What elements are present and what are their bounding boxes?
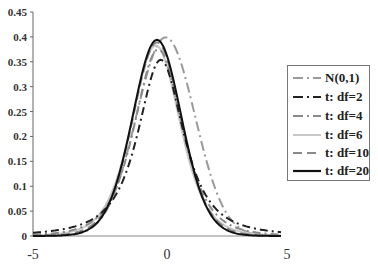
legend-item-t-df4: t: df=4 [292,107,370,125]
legend-swatch-icon [292,92,322,102]
y-tick-label: 0.2 [13,130,27,142]
y-tick-label: 0.05 [8,205,28,217]
x-tick-label: -5 [27,247,39,262]
legend-swatch-icon [292,166,322,176]
y-tick-label: 0.1 [13,180,27,192]
legend-swatch-icon [292,130,322,140]
y-tick-label: 0.25 [8,106,28,118]
series-line [33,40,281,236]
legend-label: t: df=20 [325,163,369,179]
y-axis: 00.050.10.150.20.250.30.350.40.45 [8,6,33,242]
series-line [33,49,281,234]
x-tick-label: 5 [284,247,291,262]
y-tick-label: 0 [22,230,28,242]
legend-label: t: df=4 [325,108,362,124]
series-line [33,37,281,236]
legend-item-t-df2: t: df=2 [292,88,370,106]
y-tick-label: 0.4 [13,31,27,43]
x-axis: -505 [27,236,290,262]
y-tick-label: 0.35 [8,56,28,68]
legend-label: t: df=2 [325,89,362,105]
series-line [33,42,281,235]
series-line [33,60,281,233]
plot-area [33,37,281,236]
y-tick-label: 0.45 [8,6,28,18]
legend-item-t-df6: t: df=6 [292,126,370,144]
legend-label: N(0,1) [325,70,359,86]
legend-label: t: df=10 [325,145,369,161]
x-tick-label: 0 [164,247,171,262]
legend-item-normal: N(0,1) [292,69,370,87]
legend: N(0,1) t: df=2 t: df=4 t: df=6 t: df=10 … [287,65,370,181]
y-tick-label: 0.3 [13,81,27,93]
legend-label: t: df=6 [325,127,362,143]
legend-item-t-df10: t: df=10 [292,144,370,162]
legend-swatch-icon [292,148,322,158]
legend-swatch-icon [292,73,322,83]
legend-swatch-icon [292,111,322,121]
y-tick-label: 0.15 [8,155,28,167]
series-line [33,45,281,235]
legend-item-t-df20: t: df=20 [292,162,370,180]
